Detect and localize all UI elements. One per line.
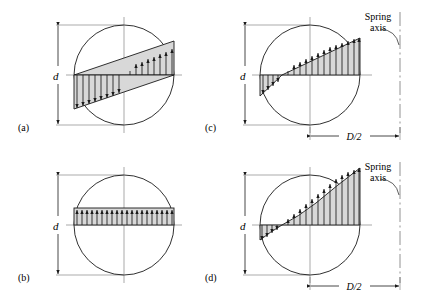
- stress-distribution-figure: d (a): [0, 0, 427, 300]
- panel-c: d Spring axis: [205, 11, 400, 144]
- panel-c-d-label: d: [240, 70, 246, 82]
- figure-canvas: d (a): [0, 0, 427, 300]
- panel-c-D-label: D/2: [346, 131, 362, 142]
- panel-d-stress-region-lower: [260, 225, 282, 240]
- panel-c-label: (c): [205, 122, 216, 134]
- panel-a-d-label: d: [53, 70, 59, 82]
- panel-b-stress-band: [74, 208, 174, 225]
- panel-b-d-label: d: [53, 220, 59, 232]
- panel-b-label: (b): [18, 272, 30, 284]
- panel-c-spring-axis-label-line1: Spring: [365, 11, 392, 22]
- panel-b: d (b): [18, 167, 182, 284]
- panel-d-spring-axis-label-line2: axis: [370, 172, 386, 183]
- panel-a: d (a): [18, 17, 182, 134]
- panel-d: d Spring axis: [205, 161, 400, 294]
- panel-d-D-label: D/2: [346, 281, 362, 292]
- panel-d-spring-axis-label-line1: Spring: [365, 161, 392, 172]
- panel-d-d-label: d: [240, 220, 246, 232]
- panel-a-label: (a): [18, 122, 29, 134]
- panel-d-label: (d): [205, 272, 217, 284]
- panel-c-spring-axis-label-line2: axis: [370, 22, 386, 33]
